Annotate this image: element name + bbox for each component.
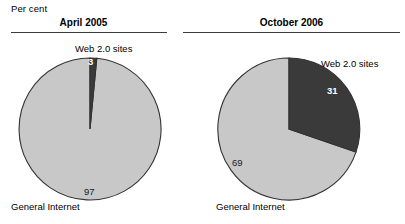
callout-web20-label-left: Web 2.0 sites bbox=[75, 43, 132, 54]
slice-value-web20-left: 3 bbox=[88, 56, 93, 67]
slice-value-web20-right: 31 bbox=[327, 85, 338, 96]
callout-general-internet-label-left: General Internet bbox=[11, 201, 80, 212]
panel-title-october-2006: October 2006 bbox=[183, 17, 400, 28]
panel-title-april-2005: April 2005 bbox=[0, 17, 167, 28]
callout-general-internet-label-right: General Internet bbox=[216, 201, 285, 212]
unit-label: Per cent bbox=[11, 3, 47, 14]
slice-value-general-internet-right: 69 bbox=[232, 157, 243, 168]
pie-left-svg bbox=[18, 57, 162, 201]
panel-divider-left bbox=[11, 32, 167, 33]
pie-chart-april-2005 bbox=[18, 57, 162, 201]
panel-divider-right bbox=[183, 32, 400, 33]
slice-value-general-internet-left: 97 bbox=[84, 186, 95, 197]
pie-right-svg bbox=[216, 56, 362, 202]
callout-web20-label-right: Web 2.0 sites bbox=[321, 58, 378, 69]
pie-chart-figure: Per cent April 2005 Web 2.0 sites 3 97 G… bbox=[0, 0, 405, 224]
pie-chart-october-2006 bbox=[216, 56, 362, 202]
